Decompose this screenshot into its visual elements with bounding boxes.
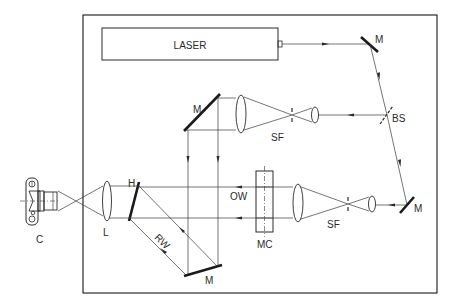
- optical-setup-diagram: LASER M BS SF M: [0, 0, 455, 306]
- mirror-bottom: M: [184, 265, 222, 286]
- mirror-upper-surface: [184, 94, 220, 131]
- lower-collimating-lens: [293, 184, 303, 222]
- camera-knob-small: [31, 211, 35, 215]
- ray: [244, 97, 292, 115]
- mirror-upper-label: M: [193, 104, 201, 115]
- lower-sf-label: SF: [327, 219, 340, 230]
- mirror-top-right-label: M: [375, 34, 383, 45]
- beam-arrow: [217, 156, 220, 163]
- laser-aperture: [278, 41, 282, 47]
- ray: [301, 187, 348, 204]
- beam-arrow: [347, 114, 354, 117]
- measurement-cell: MC: [256, 166, 273, 250]
- spatial-filter-upper: SF: [244, 97, 319, 143]
- beam-arrow: [235, 217, 242, 220]
- beam-arrow: [388, 204, 395, 207]
- object-wave-label: OW: [230, 191, 248, 202]
- upper-sf-objective-lens: [312, 107, 319, 123]
- beam-arrow: [322, 43, 329, 46]
- ray-reference-lower: [129, 218, 186, 275]
- hologram-label: H: [128, 178, 135, 189]
- mirror-bottom-label: M: [205, 275, 213, 286]
- ray: [292, 108, 312, 115]
- ray: [301, 204, 348, 219]
- reference-wave-label: RW: [153, 232, 173, 252]
- ray-reference-upper: [139, 186, 218, 267]
- beam-arrow: [187, 156, 190, 163]
- laser: LASER: [102, 28, 282, 60]
- beam-bs-to-mirror: [387, 115, 407, 205]
- cell-label: MC: [257, 239, 273, 250]
- ray: [292, 115, 312, 122]
- ray: [348, 197, 369, 204]
- mirror-top-right: M: [361, 34, 383, 52]
- ray: [348, 204, 369, 211]
- upper-collimating-lens: [236, 95, 246, 133]
- camera-label: C: [36, 234, 43, 245]
- laser-label: LASER: [174, 40, 207, 51]
- ray: [244, 115, 292, 130]
- mirror-lower-right: M: [400, 197, 422, 214]
- beam-arrow: [235, 186, 242, 189]
- mirror-lower-right-label: M: [414, 203, 422, 214]
- ray: [58, 186, 103, 211]
- lower-sf-objective-lens: [369, 196, 376, 212]
- camera: C: [20, 178, 60, 245]
- upper-sf-label: SF: [271, 132, 284, 143]
- beam-mirror-to-bs: [370, 44, 387, 115]
- mirror-bottom-surface: [184, 265, 222, 276]
- camera-knob-bottom: [29, 216, 35, 222]
- spatial-filter-lower: SF: [301, 187, 376, 230]
- imaging-lens-body: [103, 181, 112, 221]
- optical-table-frame: [83, 15, 437, 293]
- imaging-lens-label: L: [103, 227, 109, 238]
- hologram: H: [128, 178, 139, 221]
- ray: [58, 191, 103, 216]
- beam-splitter-label: BS: [392, 113, 406, 124]
- imaging-lens: L: [103, 181, 112, 238]
- mirror-upper: M: [184, 94, 220, 131]
